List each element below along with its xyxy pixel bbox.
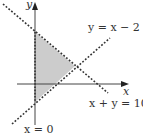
line-y-eq-x-minus-2 bbox=[12, 38, 110, 124]
label-x-eq-0: x = 0 bbox=[24, 123, 53, 136]
shaded-region bbox=[35, 32, 75, 102]
y-axis-arrow-icon bbox=[32, 2, 38, 10]
inequality-diagram: y x y = x − 2 x + y = 10 x = 0 bbox=[0, 0, 143, 136]
y-axis-label: y bbox=[25, 0, 33, 11]
label-y-eq-x-minus-2: y = x − 2 bbox=[87, 21, 140, 34]
label-x-plus-y-eq-10: x + y = 10 bbox=[89, 97, 143, 110]
